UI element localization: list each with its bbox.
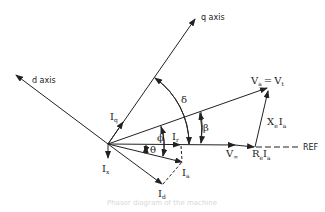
q-current-label: Iq bbox=[110, 111, 118, 124]
q-axis-label: q axis bbox=[201, 13, 225, 22]
resistive-drop-label: ReIa bbox=[252, 148, 271, 161]
armature-current-label: Ia bbox=[182, 167, 190, 179]
phi-angle: ϕ bbox=[157, 126, 164, 156]
d-axis-label: d axis bbox=[32, 76, 56, 85]
reactive-drop-label: XeIa bbox=[267, 116, 287, 129]
reactive-drop-phasor: XeIa bbox=[255, 91, 287, 147]
phi-label: ϕ bbox=[157, 132, 164, 143]
reactive-current-phasor: Ix bbox=[102, 144, 110, 175]
infinite-bus-label: V∞ bbox=[225, 148, 238, 160]
ref-label: REF bbox=[303, 143, 319, 152]
real-current-phasor: Ir bbox=[172, 131, 182, 160]
reactive-current-label: Ix bbox=[102, 163, 110, 175]
terminal-voltage-label: Va=Vt bbox=[250, 75, 284, 87]
theta-label-lower: θ bbox=[150, 144, 156, 155]
d-axis: d axis bbox=[16, 75, 108, 144]
reference-line: REF bbox=[108, 143, 319, 152]
real-current-label: Ir bbox=[172, 131, 179, 143]
phasor-diagram: q axis d axis REF Va=Vt XeIa ReIa V∞ bbox=[0, 0, 325, 212]
delta-label: δ bbox=[181, 94, 187, 105]
beta-label: β bbox=[203, 122, 209, 133]
beta-angle: β bbox=[200, 112, 209, 143]
figure-caption: Phasor diagram of the machine bbox=[107, 199, 217, 207]
